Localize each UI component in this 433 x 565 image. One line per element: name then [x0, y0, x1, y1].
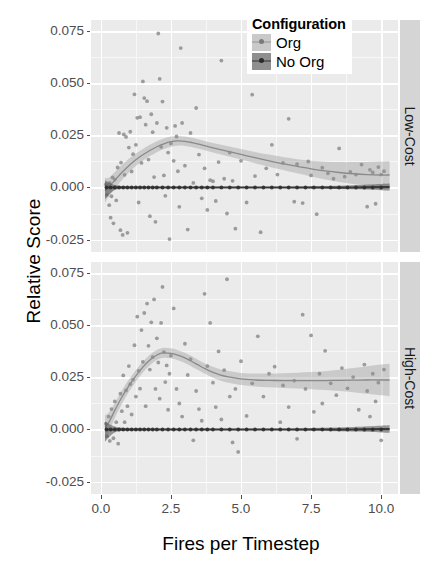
data-point	[131, 378, 135, 382]
data-point	[371, 171, 375, 175]
data-point	[225, 212, 229, 216]
data-point	[228, 186, 232, 190]
data-point	[208, 321, 212, 325]
data-point	[114, 420, 118, 424]
data-point	[148, 368, 152, 372]
data-point	[142, 96, 146, 100]
data-point	[295, 186, 299, 190]
data-point	[320, 186, 324, 190]
data-point	[166, 186, 170, 190]
data-point	[262, 186, 266, 190]
data-point	[270, 428, 274, 432]
data-point	[109, 216, 113, 220]
data-point	[116, 442, 120, 446]
data-point	[365, 389, 369, 393]
data-point	[231, 441, 235, 445]
data-point	[166, 151, 170, 155]
legend-item-org[interactable]: Org	[252, 33, 346, 52]
data-point	[149, 112, 153, 116]
data-point	[214, 405, 218, 409]
data-point	[354, 428, 358, 432]
series-no-org-high-cost	[105, 422, 390, 442]
data-point	[228, 151, 232, 155]
confidence-ribbon	[105, 422, 390, 442]
data-point	[137, 369, 141, 373]
data-point	[217, 350, 221, 354]
data-point	[295, 428, 299, 432]
data-point	[169, 354, 173, 358]
data-point	[323, 349, 327, 353]
data-point	[120, 409, 124, 413]
data-point	[287, 428, 291, 432]
data-point	[151, 355, 155, 359]
legend-key-org-icon	[252, 34, 271, 51]
data-point	[186, 373, 190, 377]
data-point	[154, 220, 158, 224]
data-point	[253, 174, 257, 178]
data-point	[152, 298, 156, 302]
confidence-ribbon	[105, 136, 390, 203]
data-point	[158, 397, 162, 401]
data-point	[360, 163, 364, 167]
data-point	[219, 418, 223, 422]
data-point	[109, 186, 113, 190]
data-point	[134, 395, 138, 399]
data-point	[180, 121, 184, 125]
data-point	[233, 227, 237, 231]
data-point	[155, 186, 159, 190]
data-point	[365, 205, 369, 209]
data-point	[169, 141, 173, 145]
data-point	[119, 392, 123, 396]
data-point	[177, 205, 181, 209]
data-point	[354, 173, 358, 177]
data-point	[340, 366, 344, 370]
data-point	[292, 200, 296, 204]
data-point	[304, 387, 308, 391]
data-point	[200, 196, 204, 200]
data-point	[142, 186, 146, 190]
data-point	[228, 395, 232, 399]
data-point	[183, 164, 187, 168]
legend-label-no-org: No Org	[276, 54, 324, 69]
data-point	[147, 158, 151, 162]
data-point	[200, 419, 204, 423]
data-point	[211, 381, 215, 385]
data-point	[304, 186, 308, 190]
data-point	[117, 428, 121, 432]
data-point	[222, 368, 226, 372]
data-point	[197, 407, 201, 411]
data-point	[346, 386, 350, 390]
data-point	[128, 130, 132, 134]
data-point	[147, 344, 151, 348]
data-point	[135, 315, 139, 319]
data-point	[112, 221, 116, 225]
data-point	[222, 177, 226, 181]
data-point	[278, 420, 282, 424]
data-point	[287, 117, 291, 121]
data-point	[301, 201, 305, 205]
data-point	[121, 186, 125, 190]
data-point	[236, 186, 240, 190]
data-point	[189, 186, 193, 190]
data-point	[175, 135, 179, 139]
data-point	[278, 428, 282, 432]
data-point	[133, 92, 137, 96]
data-point	[149, 320, 153, 324]
data-point	[334, 393, 338, 397]
legend-item-no-org[interactable]: No Org	[252, 52, 346, 71]
data-point	[368, 415, 372, 419]
data-point	[194, 389, 198, 393]
data-point	[304, 428, 308, 432]
data-point	[128, 382, 132, 386]
data-point	[126, 428, 130, 432]
data-point	[152, 175, 156, 179]
data-point	[131, 152, 135, 156]
data-point	[337, 186, 341, 190]
legend-label-org: Org	[276, 35, 301, 50]
data-point	[176, 169, 180, 173]
data-point	[295, 437, 299, 441]
data-point	[172, 159, 176, 163]
data-point	[205, 428, 209, 432]
data-point	[306, 160, 310, 164]
data-point	[379, 173, 383, 177]
